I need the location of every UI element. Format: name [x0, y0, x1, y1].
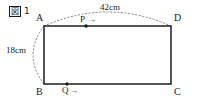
point-label-p: P — [80, 15, 85, 24]
point-label-q: Q — [62, 86, 69, 95]
figure-container: 図1 A D B C 42cm 18cm P → Q → — [0, 0, 198, 104]
point-p-direction-arrow-icon: → — [88, 16, 96, 24]
dimension-label-height: 18cm — [6, 46, 26, 55]
figure-caption-number: 1 — [24, 6, 30, 16]
dimension-label-width: 42cm — [100, 3, 120, 12]
dimension-arc-height — [33, 26, 44, 84]
point-p-marker — [84, 24, 87, 27]
figure-caption: 図1 — [9, 6, 30, 17]
point-q-direction-arrow-icon: → — [70, 87, 78, 95]
figure-caption-kanji: 図 — [9, 6, 21, 17]
dimension-arc-width — [44, 12, 171, 26]
vertex-label-a: A — [36, 13, 43, 23]
vertex-label-b: B — [36, 87, 43, 97]
vertex-label-d: D — [174, 13, 181, 23]
vertex-label-c: C — [174, 87, 181, 97]
rectangle-abcd — [44, 26, 171, 84]
